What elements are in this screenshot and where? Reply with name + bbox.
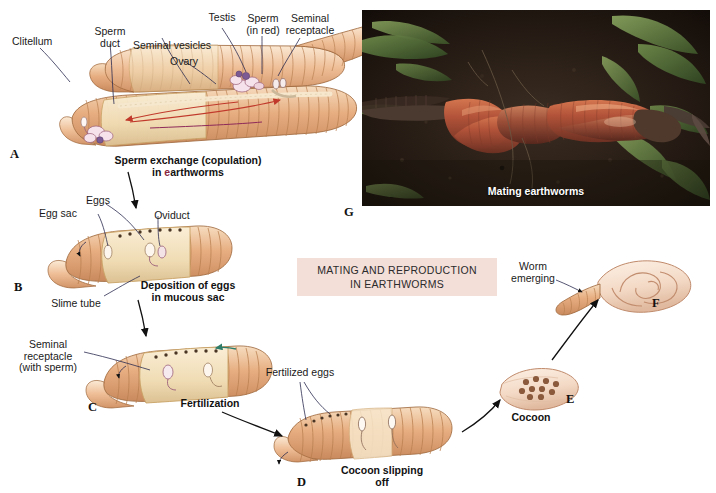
label-eggs: Eggs [86, 195, 110, 207]
panel-d-cocoon-slipping-illustration [274, 382, 452, 464]
figure-title-line2: IN EARTHWORMS [350, 278, 444, 290]
photo-caption: Mating earthworms [362, 185, 710, 197]
label-testis: Testis [209, 12, 236, 24]
panel-letter-d: D [297, 475, 306, 490]
caption-panel-a-line1: Sperm exchange (copulation) [114, 154, 261, 166]
photo-content [362, 10, 710, 206]
label-egg-sac: Egg sac [39, 208, 77, 220]
figure-title-box: MATING AND REPRODUCTION IN EARTHWORMS [297, 258, 497, 296]
label-seminal-receptacle: Seminal receptacle [286, 13, 334, 36]
label-sperm-in-red: Sperm (in red) [246, 13, 279, 36]
panel-c-fertilization-illustration [84, 346, 272, 408]
caption-panel-a-line2: in earthworms [152, 166, 224, 178]
caption-panel-c: Fertilization [181, 397, 240, 409]
label-oviduct: Oviduct [154, 210, 190, 222]
panel-letter-e: E [566, 392, 574, 407]
panel-a-copulation-illustration [40, 24, 390, 146]
label-fertilized-eggs: Fertilized eggs [266, 367, 334, 379]
panel-letter-a: A [10, 147, 19, 162]
photo-mating-earthworms: Mating earthworms [362, 10, 710, 206]
caption-panel-e: Cocoon [511, 411, 550, 423]
caption-panel-b-line2: in mucous sac [152, 291, 225, 303]
label-seminal-vesicles: Seminal vesicles [133, 40, 211, 52]
label-slime-tube: Slime tube [51, 298, 101, 310]
panel-letter-g: G [344, 205, 354, 220]
caption-panel-d-line2: off [375, 476, 388, 488]
label-clitellum: Clitellum [12, 36, 52, 48]
caption-panel-b-line1: Deposition of eggs [141, 279, 236, 291]
panel-letter-c: C [88, 400, 97, 415]
label-sperm-duct: Sperm duct [95, 26, 126, 49]
panel-letter-b: B [14, 280, 22, 295]
panel-letter-f: F [652, 296, 660, 311]
caption-panel-d-line1: Cocoon slipping [341, 464, 423, 476]
label-seminal-receptacle-with-sperm: Seminal receptacle (with sperm) [19, 339, 77, 374]
label-ovary: Ovary [170, 56, 198, 68]
figure-title-line1: MATING AND REPRODUCTION [317, 264, 477, 276]
panel-f-worm-emerging-illustration [556, 261, 691, 315]
label-worm-emerging: Worm emerging [511, 261, 555, 284]
